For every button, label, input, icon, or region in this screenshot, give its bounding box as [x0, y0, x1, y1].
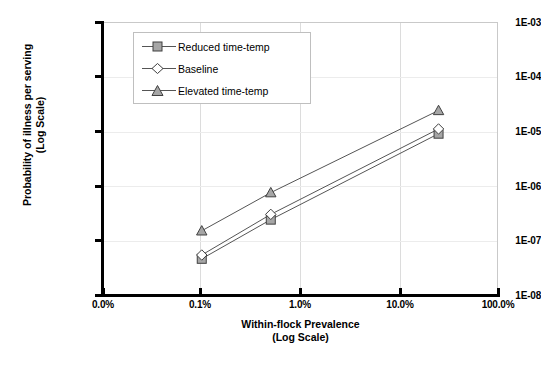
x-tick-label: 0.1%	[165, 299, 235, 310]
y-tick-label: 1E-07	[487, 235, 541, 246]
y-axis-tick	[95, 21, 102, 24]
legend-marker-triangle	[142, 84, 176, 98]
x-axis-title: Within-flock Prevalence (Log Scale)	[103, 318, 498, 344]
x-tick-label: 100.0%	[463, 299, 533, 310]
y-axis-tick	[95, 185, 102, 188]
y-axis-line	[101, 21, 104, 297]
legend: Reduced time-temp Baseline Elevated time…	[133, 32, 311, 104]
legend-label: Elevated time-temp	[178, 85, 268, 97]
legend-item-baseline: Baseline	[142, 60, 218, 78]
y-axis-tick	[95, 75, 102, 78]
x-tick-label: 1.0%	[265, 299, 335, 310]
x-tick-label: 0.0%	[68, 299, 138, 310]
x-tick-label: 10.0%	[365, 299, 435, 310]
legend-marker-square	[142, 40, 176, 54]
x-axis-tick	[102, 288, 105, 295]
y-tick-label: 1E-04	[487, 71, 541, 82]
gridline-horizontal	[104, 186, 497, 187]
legend-marker-diamond	[142, 62, 176, 76]
y-axis-title: Probability of illness per serving (Log …	[21, 25, 47, 225]
y-axis-tick	[95, 239, 102, 242]
chart-figure: 1E-03 1E-04 1E-05 1E-06 1E-07 1E-08 0.0%…	[0, 0, 541, 371]
legend-item-elevated-time-temp: Elevated time-temp	[142, 82, 268, 100]
y-axis-tick	[95, 294, 102, 297]
y-tick-label: 1E-06	[487, 181, 541, 192]
x-axis-tick	[199, 288, 202, 295]
y-axis-title-line2: (Log Scale)	[34, 97, 46, 154]
x-axis-title-line1: Within-flock Prevalence	[241, 318, 359, 330]
legend-label: Baseline	[178, 63, 218, 75]
y-axis-tick	[95, 130, 102, 133]
gridline-horizontal	[104, 241, 497, 242]
gridline-vertical	[400, 23, 401, 294]
y-tick-label: 1E-05	[487, 126, 541, 137]
y-axis-title-line1: Probability of illness per serving	[21, 44, 33, 206]
x-axis-tick	[299, 288, 302, 295]
legend-label: Reduced time-temp	[178, 41, 270, 53]
x-axis-tick	[399, 288, 402, 295]
x-axis-title-line2: (Log Scale)	[272, 331, 329, 343]
x-axis-tick	[497, 288, 500, 295]
legend-item-reduced-time-temp: Reduced time-temp	[142, 38, 270, 56]
y-tick-label: 1E-03	[487, 17, 541, 28]
gridline-horizontal	[104, 132, 497, 133]
